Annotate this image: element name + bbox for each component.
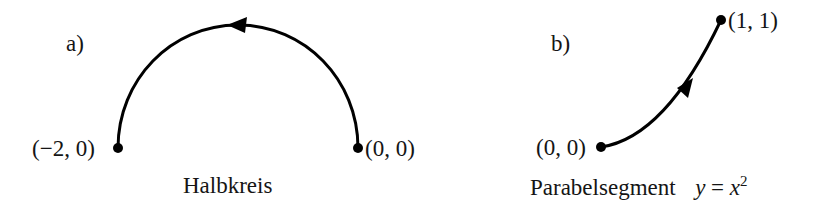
point-a-start (353, 143, 363, 153)
math-base: x (730, 175, 740, 200)
math-eq: = (711, 175, 724, 200)
caption-text: Parabelsegment (530, 175, 676, 200)
point-b-start (596, 142, 606, 152)
parabola-path (601, 20, 721, 147)
point-a-start-label: (0, 0) (365, 137, 415, 160)
point-b-end-label: (1, 1) (728, 9, 778, 32)
math-lhs: y (695, 175, 705, 200)
point-b-start-label: (0, 0) (536, 136, 586, 159)
panel-b-caption: Parabelsegment y = x2 (530, 174, 748, 199)
panel-a-tag: a) (66, 32, 84, 55)
point-b-end (716, 15, 726, 25)
semicircle-path (118, 25, 358, 148)
point-a-end (113, 143, 123, 153)
panel-b-tag: b) (551, 32, 570, 55)
point-a-end-label: (−2, 0) (32, 137, 95, 160)
math-exp: 2 (740, 173, 748, 189)
arrow-left-icon (227, 17, 247, 33)
panel-a-caption: Halbkreis (183, 174, 272, 197)
